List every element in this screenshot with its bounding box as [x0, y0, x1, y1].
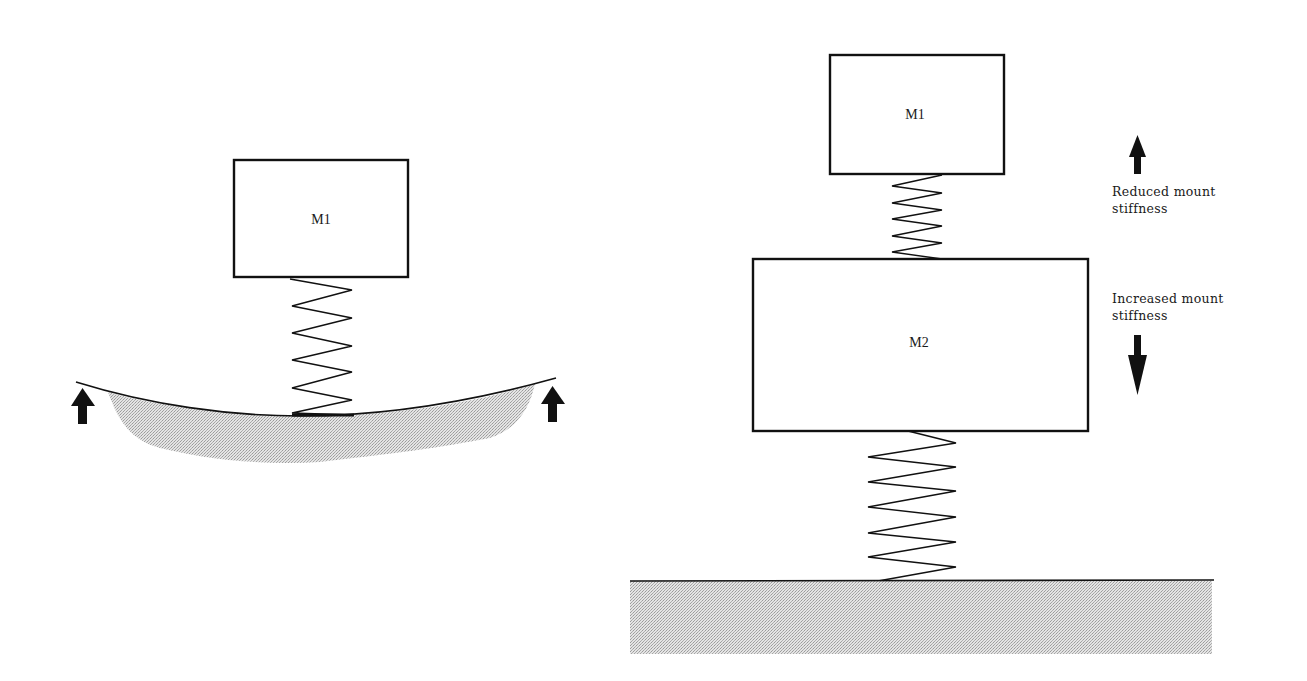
beam-shading — [108, 384, 535, 463]
annotation-increased-line2: stiffness — [1112, 307, 1224, 324]
reaction-arrow-left-icon — [71, 388, 95, 424]
diagram-canvas: M1 M1 M2 — [0, 0, 1307, 681]
ground-shading — [630, 581, 1212, 654]
spring-left — [290, 279, 352, 415]
spring-lower — [868, 431, 956, 581]
annotation-increased-line1: Increased mount — [1112, 290, 1224, 307]
mass-label-m1-right: M1 — [905, 107, 924, 122]
arrow-down-icon — [1128, 335, 1147, 395]
mass-label-m1-left: M1 — [311, 212, 330, 227]
arrow-up-icon — [1129, 135, 1146, 174]
annotation-increased-stiffness: Increased mount stiffness — [1112, 290, 1224, 324]
reaction-arrow-right-icon — [541, 386, 565, 422]
spring-upper — [892, 175, 942, 259]
left-system: M1 — [71, 160, 565, 463]
right-system: M1 M2 — [630, 55, 1214, 654]
annotation-reduced-line2: stiffness — [1112, 200, 1216, 217]
annotation-reduced-stiffness: Reduced mount stiffness — [1112, 183, 1216, 217]
mass-label-m2: M2 — [909, 335, 928, 350]
annotation-reduced-line1: Reduced mount — [1112, 183, 1216, 200]
ground-line — [630, 580, 1214, 581]
